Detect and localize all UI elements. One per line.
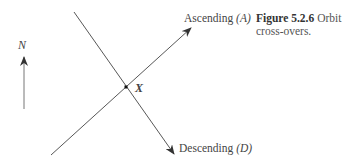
crossover-label: X: [135, 81, 143, 96]
caption-number: Figure 5.2.6: [256, 12, 314, 24]
ascending-text: Ascending: [184, 12, 233, 24]
north-label: N: [18, 38, 26, 53]
descending-text: Descending: [179, 142, 233, 154]
ascending-label: Ascending (A): [184, 12, 251, 24]
descending-label: Descending (D): [179, 142, 252, 154]
ascending-track: [51, 28, 191, 155]
descending-track: [74, 12, 174, 154]
descending-symbol: (D): [236, 142, 252, 154]
ascending-symbol: (A): [236, 12, 251, 24]
crossover-point: [125, 86, 128, 89]
figure-caption: Figure 5.2.6 Orbit cross-overs.: [256, 12, 356, 38]
orbit-crossover-figure: N X Ascending (A) Descending (D) Figure …: [0, 0, 359, 163]
